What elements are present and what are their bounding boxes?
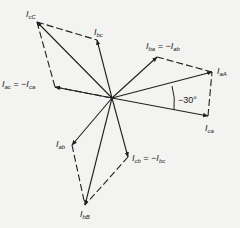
- dashed-line: [208, 72, 212, 116]
- vector-i-bc: [97, 40, 112, 98]
- phasor-diagram: [0, 0, 240, 228]
- label-i-ab: Iab: [56, 140, 65, 150]
- dashed-construction-lines: [37, 22, 212, 205]
- label-i-cb: Icb = −Ibc: [132, 154, 165, 164]
- angle-arc: [172, 86, 174, 110]
- label-i-aa: IaA: [217, 67, 227, 77]
- label-i-bb: IbB: [80, 210, 90, 220]
- label-i-ca: Ica: [205, 124, 214, 134]
- label-i-bc: Ibc: [94, 28, 103, 38]
- label-i-cc: IcC: [26, 10, 36, 20]
- dashed-line: [157, 57, 212, 72]
- vector-i-cb: [112, 98, 128, 157]
- label-i-ac: Iac = −Ica: [2, 80, 35, 90]
- angle-label: −30°: [178, 95, 197, 105]
- label-i-ba: Iba = −Iab: [146, 42, 180, 52]
- phasor-vectors: [37, 22, 212, 205]
- dashed-line: [72, 145, 85, 205]
